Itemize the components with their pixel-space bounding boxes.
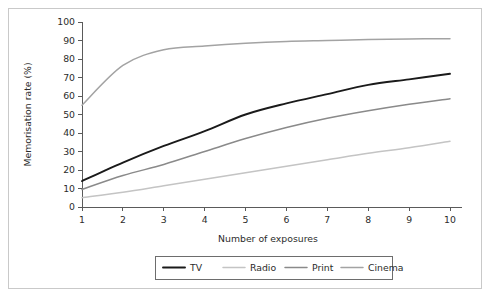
x-tick-label: 9 <box>406 214 412 225</box>
axes <box>82 22 462 207</box>
series-line-tv <box>82 74 450 181</box>
y-tick-label: 50 <box>63 109 75 120</box>
y-tick-label: 20 <box>63 164 75 175</box>
x-tick-label: 2 <box>120 214 126 225</box>
y-axis-ticks: 0102030405060708090100 <box>57 16 82 212</box>
y-tick-label: 70 <box>63 72 75 83</box>
y-tick-label: 60 <box>63 90 75 101</box>
x-axis-ticks: 12345678910 <box>79 207 456 225</box>
legend-label-tv: TV <box>189 262 203 273</box>
x-tick-label: 7 <box>324 214 330 225</box>
x-tick-label: 6 <box>283 214 289 225</box>
y-tick-label: 30 <box>63 146 75 157</box>
legend-label-cinema: Cinema <box>368 262 403 273</box>
legend-label-radio: Radio <box>250 262 276 273</box>
y-tick-label: 90 <box>63 35 75 46</box>
y-tick-label: 100 <box>57 16 75 27</box>
series-line-radio <box>82 141 450 197</box>
series-line-cinema <box>82 39 450 106</box>
x-tick-label: 10 <box>444 214 456 225</box>
y-tick-label: 80 <box>63 53 75 64</box>
x-tick-label: 1 <box>79 214 85 225</box>
chart-figure: 010203040506070809010012345678910Number … <box>0 0 491 297</box>
line-chart: 010203040506070809010012345678910Number … <box>0 0 491 297</box>
chart-legend: TVRadioPrintCinema <box>155 256 403 279</box>
y-axis-title: Memorisation rate (%) <box>22 62 33 166</box>
y-tick-label: 0 <box>69 201 75 212</box>
y-tick-label: 40 <box>63 127 75 138</box>
series-line-print <box>82 99 450 190</box>
x-tick-label: 3 <box>161 214 167 225</box>
legend-label-print: Print <box>312 262 334 273</box>
x-tick-label: 4 <box>202 214 208 225</box>
y-tick-label: 10 <box>63 183 75 194</box>
series-group <box>82 39 450 198</box>
x-axis-title: Number of exposures <box>218 233 318 244</box>
x-tick-label: 8 <box>365 214 371 225</box>
x-tick-label: 5 <box>243 214 249 225</box>
